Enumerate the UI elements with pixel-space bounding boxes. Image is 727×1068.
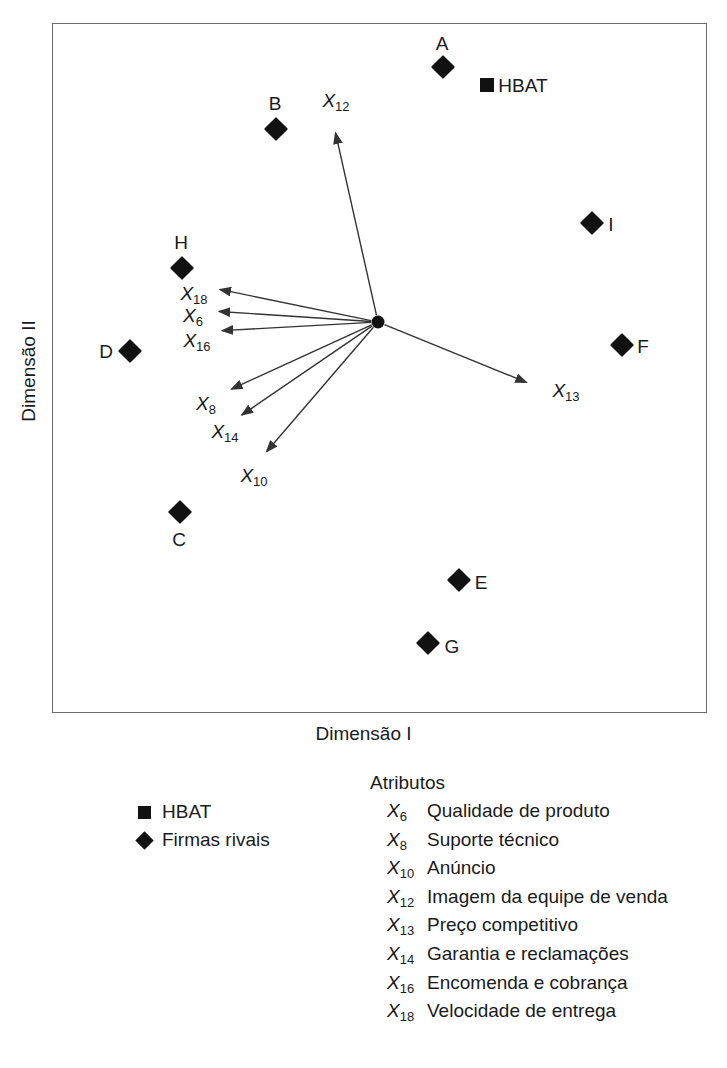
attribute-code: X14 (387, 943, 427, 965)
vector-label-x12: X12 (322, 91, 349, 110)
square-marker-icon (138, 806, 162, 819)
attribute-legend-rows: X6Qualidade de produtoX8Suporte técnicoX… (370, 800, 720, 1029)
attribute-description: Anúncio (427, 857, 496, 879)
perceptual-map-figure: X12X18X6X16X13X8X14X10AHBATBIHFDCEG Dime… (0, 0, 727, 1068)
attribute-description: Velocidade de entrega (427, 1000, 616, 1022)
firm-label-h: H (174, 233, 188, 252)
firm-label-a: A (436, 34, 449, 53)
diamond-marker-icon (138, 834, 162, 847)
legend-item-label: HBAT (162, 801, 211, 823)
attribute-description: Garantia e reclamações (427, 943, 629, 965)
attribute-item-x14: X14Garantia e reclamações (370, 943, 720, 972)
attribute-item-x16: X16Encomenda e cobrança (370, 972, 720, 1001)
legend-item-hbat: HBAT (138, 798, 348, 826)
firm-marker-b (264, 117, 288, 141)
firm-label-g: G (445, 637, 460, 656)
attribute-description: Imagem da equipe de venda (427, 886, 668, 908)
y-axis-title: Dimensão II (18, 231, 40, 511)
vector-label-x8: X8 (196, 394, 216, 413)
firm-label-e: E (475, 573, 488, 592)
firm-label-d: D (99, 342, 113, 361)
attribute-description: Encomenda e cobrança (427, 972, 628, 994)
x-axis-title: Dimensão I (0, 723, 727, 745)
attribute-item-x12: X12Imagem da equipe de venda (370, 886, 720, 915)
hbat-marker (480, 78, 494, 92)
attribute-code: X12 (387, 886, 427, 908)
attribute-item-x6: X6Qualidade de produto (370, 800, 720, 829)
attribute-legend-heading: Atributos (370, 772, 720, 794)
firm-marker-d (118, 339, 142, 363)
firm-label-i: I (608, 215, 613, 234)
vector-label-x10: X10 (240, 466, 267, 485)
attribute-code: X10 (387, 857, 427, 879)
firm-label-b: B (269, 94, 282, 113)
vector-label-x13: X13 (552, 381, 579, 400)
attribute-item-x10: X10Anúncio (370, 857, 720, 886)
attribute-code: X18 (387, 1000, 427, 1022)
firm-marker-c (168, 500, 192, 524)
firm-label-f: F (637, 337, 649, 356)
firm-marker-h (170, 256, 194, 280)
legend-item-firmas-rivais: Firmas rivais (138, 826, 348, 854)
vector-origin-point (372, 316, 385, 329)
vector-label-x16: X16 (183, 331, 210, 350)
attribute-description: Preço competitivo (427, 914, 578, 936)
attribute-code: X13 (387, 914, 427, 936)
vector-label-x18: X18 (180, 284, 207, 303)
attribute-code: X16 (387, 972, 427, 994)
firm-marker-g (416, 631, 440, 655)
firm-marker-e (447, 568, 471, 592)
attribute-description: Suporte técnico (427, 829, 559, 851)
firm-marker-i (580, 211, 604, 235)
firm-marker-a (431, 55, 455, 79)
vector-label-x14: X14 (211, 422, 238, 441)
legend-item-label: Firmas rivais (162, 829, 270, 851)
firm-marker-f (610, 333, 634, 357)
vector-label-x6: X6 (183, 306, 203, 325)
attribute-item-x18: X18Velocidade de entrega (370, 1000, 720, 1029)
attribute-item-x8: X8Suporte técnico (370, 829, 720, 858)
attribute-code: X8 (387, 829, 427, 851)
marker-layer: X12X18X6X16X13X8X14X10AHBATBIHFDCEG (0, 0, 727, 740)
firm-label-c: C (172, 530, 186, 549)
attribute-item-x13: X13Preço competitivo (370, 914, 720, 943)
attribute-legend: Atributos X6Qualidade de produtoX8Suport… (370, 772, 720, 1029)
attribute-code: X6 (387, 800, 427, 822)
attribute-description: Qualidade de produto (427, 800, 610, 822)
symbol-legend: HBATFirmas rivais (138, 798, 348, 854)
firm-label-hbat: HBAT (498, 76, 547, 95)
